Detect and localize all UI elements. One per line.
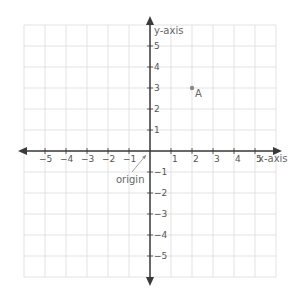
y-tick-label: 4 (154, 62, 160, 72)
y-tick-label: −2 (154, 188, 167, 198)
arrow-up-icon (146, 16, 154, 25)
arrow-left-icon (18, 147, 27, 155)
x-tick-label: 4 (235, 154, 241, 164)
y-tick-label: 3 (154, 83, 160, 93)
x-tick-label: 1 (172, 154, 178, 164)
arrow-down-icon (146, 277, 154, 286)
y-tick-label: 1 (154, 125, 160, 135)
y-tick-label: −5 (154, 251, 167, 261)
x-tick-label: −4 (60, 154, 74, 164)
coordinate-plane: −5−4−3−2−11234554321−1−2−3−4−5 y-axis x-… (0, 0, 304, 295)
y-tick-label: −3 (154, 209, 167, 219)
y-tick-label: 5 (154, 41, 160, 51)
x-tick-label: −2 (102, 154, 115, 164)
x-tick-label: 2 (193, 154, 199, 164)
x-tick-label: 3 (214, 154, 220, 164)
x-axis-label: x-axis (258, 153, 288, 164)
point-label: A (195, 88, 202, 99)
axes (18, 16, 282, 286)
y-tick-label: −1 (154, 167, 167, 177)
point-marker (190, 86, 194, 90)
origin-arrowhead-icon (142, 155, 146, 159)
origin-label: origin (116, 174, 144, 185)
y-tick-label: 2 (154, 104, 160, 114)
x-tick-label: −5 (39, 154, 52, 164)
x-tick-label: −1 (123, 154, 136, 164)
y-axis-label: y-axis (154, 25, 183, 36)
x-tick-label: −3 (81, 154, 94, 164)
y-tick-label: −4 (154, 230, 168, 240)
